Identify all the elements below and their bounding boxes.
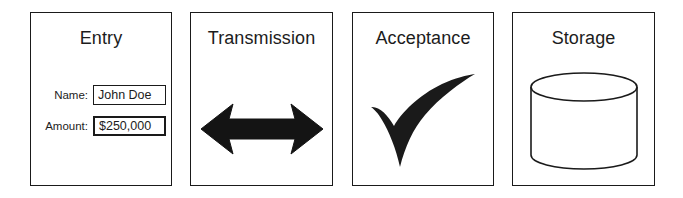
amount-field-value[interactable]: $250,000: [93, 116, 166, 136]
checkmark-icon: [363, 73, 483, 173]
process-flow-diagram: Entry Name: John Doe Amount: $250,000 Tr…: [0, 0, 683, 198]
panel-transmission-title: Transmission: [191, 27, 332, 49]
panel-entry-title: Entry: [31, 27, 171, 49]
panel-acceptance-title: Acceptance: [353, 27, 493, 49]
double-headed-arrow-icon: [199, 101, 325, 157]
transmission-graphic: [191, 101, 332, 161]
panel-storage-title: Storage: [513, 27, 654, 49]
storage-graphic: [513, 71, 654, 183]
database-cylinder-icon: [528, 71, 640, 171]
name-field-label: Name:: [54, 89, 88, 101]
panel-transmission[interactable]: Transmission: [190, 12, 333, 186]
panel-acceptance[interactable]: Acceptance: [352, 12, 494, 186]
panel-entry[interactable]: Entry Name: John Doe Amount: $250,000: [30, 12, 172, 186]
form-row-name: Name: John Doe: [31, 85, 171, 105]
acceptance-graphic: [353, 73, 493, 178]
form-row-amount: Amount: $250,000: [31, 116, 171, 136]
amount-field-label: Amount:: [45, 120, 88, 132]
panel-storage[interactable]: Storage: [512, 12, 655, 186]
entry-form: Name: John Doe Amount: $250,000: [31, 85, 171, 147]
name-field-value[interactable]: John Doe: [93, 85, 166, 105]
